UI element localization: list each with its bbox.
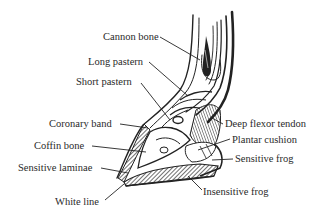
label-deep-flexor-tendon: Deep flexor tendon [225,118,306,130]
cannon-bone-shape [203,36,211,76]
label-short-pastern: Short pastern [76,76,132,88]
hoof-cross-section-diagram [0,0,332,224]
label-coronary-band: Coronary band [49,118,112,130]
label-coffin-bone: Coffin bone [34,140,84,152]
label-sensitive-frog: Sensitive frog [235,153,294,165]
deep-flexor-region [190,105,221,148]
label-white-line: White line [55,196,99,208]
label-cannon-bone: Cannon bone [103,31,159,43]
label-plantar-cushion: Plantar cushion [232,134,297,146]
label-long-pastern: Long pastern [88,56,143,68]
label-insensitive-frog: Insensitive frog [203,186,269,198]
label-sensitive-laminae: Sensitive laminae [18,162,92,174]
